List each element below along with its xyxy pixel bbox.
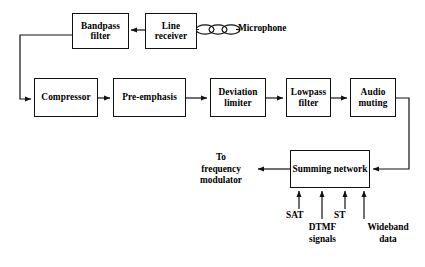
block-compressor[interactable]: Compressor — [34, 78, 98, 117]
label-to-frequency-modulator: To frequency modulator — [185, 152, 257, 187]
label-sat: SAT — [286, 210, 303, 222]
block-diagram: Bandpass filter Line receiver Compressor… — [0, 0, 425, 267]
block-line-receiver[interactable]: Line receiver — [145, 13, 197, 49]
block-pre-emphasis[interactable]: Pre-emphasis — [113, 78, 186, 117]
microphone-cable-icon — [196, 25, 240, 34]
block-lowpass-filter[interactable]: Lowpass filter — [286, 78, 331, 117]
block-audio-muting[interactable]: Audio muting — [350, 78, 396, 117]
block-summing-network[interactable]: Summing network — [290, 150, 370, 188]
label-dtmf-signals: DTMF signals — [300, 222, 345, 245]
block-bandpass-filter[interactable]: Bandpass filter — [72, 13, 129, 49]
label-st: ST — [334, 210, 345, 222]
label-wideband-data: Wideband data — [362, 222, 414, 245]
block-deviation-limiter[interactable]: Deviation limiter — [210, 78, 266, 117]
label-microphone: Microphone — [238, 23, 286, 35]
